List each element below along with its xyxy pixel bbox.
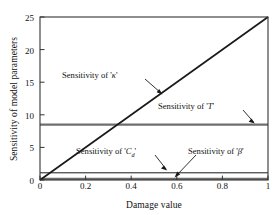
y-tick-label-25: 25 bbox=[12, 13, 34, 23]
annotation-T-suffix: ' bbox=[213, 101, 215, 111]
annotation-sensitivity-T: Sensitivity of 'T' bbox=[158, 101, 214, 111]
sensitivity-chart-figure: 25 20 15 10 5 0 0 0.2 0.4 0.6 0.8 1 Sens… bbox=[0, 0, 278, 215]
x-tick-label-0.6: 0.6 bbox=[162, 181, 192, 191]
annotation-sensitivity-Cd: Sensitivity of 'Cd' bbox=[76, 146, 136, 158]
annotation-Cd-prefix: Sensitivity of ' bbox=[76, 146, 126, 156]
annotation-sensitivity-kappa: Sensitivity of 'κ' bbox=[62, 70, 117, 80]
annotation-beta-suffix: ' bbox=[242, 146, 244, 156]
annotation-kappa-prefix: Sensitivity of ' bbox=[62, 70, 112, 80]
x-tick-label-0.2: 0.2 bbox=[71, 181, 101, 191]
annotation-kappa-suffix: ' bbox=[116, 70, 118, 80]
y-axis-label: Sensitivity of model parameters bbox=[9, 37, 19, 161]
annotation-Cd-suffix: ' bbox=[135, 146, 137, 156]
x-axis-label: Damage value bbox=[126, 200, 182, 210]
y-axis-label-wrap: Sensitivity of model parameters bbox=[3, 24, 21, 174]
annotation-beta-prefix: Sensitivity of ' bbox=[188, 146, 238, 156]
x-tick-label-1: 1 bbox=[253, 181, 278, 191]
annotation-T-prefix: Sensitivity of ' bbox=[158, 101, 208, 111]
x-tick-label-0: 0 bbox=[25, 181, 55, 191]
x-tick-label-0.4: 0.4 bbox=[116, 181, 146, 191]
x-axis-label-wrap: Damage value bbox=[40, 194, 268, 212]
x-tick-label-0.8: 0.8 bbox=[207, 181, 237, 191]
annotation-sensitivity-beta: Sensitivity of 'β' bbox=[188, 146, 244, 156]
